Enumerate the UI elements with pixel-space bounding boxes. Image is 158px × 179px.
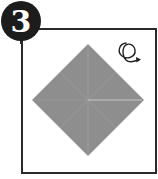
origami-step-diagram: 3: [0, 0, 158, 179]
step-number-badge: 3: [1, 1, 41, 41]
step-number: 3: [11, 7, 32, 37]
turn-over-icon: [119, 43, 141, 63]
